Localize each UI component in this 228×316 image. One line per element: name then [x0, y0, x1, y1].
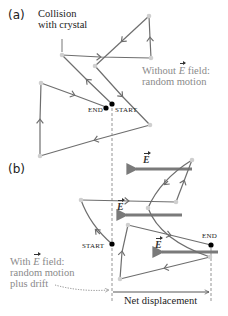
- caption-b-prefix: With: [10, 256, 33, 267]
- drift-motion-path: [81, 160, 211, 279]
- start-label-a: START: [115, 107, 137, 114]
- end-point-a: [103, 105, 108, 110]
- end-label-b: END: [202, 233, 217, 240]
- collision-points: [38, 14, 154, 159]
- random-motion-path: [40, 16, 151, 156]
- start-point-b: [109, 241, 114, 246]
- e-field-label-1: E: [143, 155, 150, 165]
- start-point-a: [109, 101, 114, 106]
- e-vector-symbol-b: E: [33, 256, 39, 267]
- caption-b-suffix: field:: [40, 256, 65, 267]
- caption-a-line2: random motion: [142, 76, 210, 87]
- e-field-label-2: E: [117, 202, 124, 212]
- collision-callout: Collision with crystal: [38, 8, 87, 30]
- end-label-a: END: [88, 107, 103, 114]
- e-field-symbol-3: E: [155, 240, 162, 250]
- caption-a-suffix: field:: [185, 65, 210, 76]
- net-displacement-label: Net displacement: [124, 296, 197, 307]
- e-field-label-3: E: [155, 240, 162, 250]
- collision-callout-line1: Collision: [38, 8, 87, 19]
- caption-b-line2: random motion: [10, 267, 74, 278]
- caption-b-line3: plus drift: [10, 278, 74, 289]
- e-vector-symbol: E: [179, 65, 185, 76]
- panel-b-label: (b): [8, 163, 25, 175]
- panel-a-label: (a): [8, 9, 25, 21]
- caption-with-field: With E field: random motion plus drift: [10, 256, 74, 289]
- e-field-symbol-2: E: [117, 202, 124, 212]
- end-point-b: [208, 242, 213, 247]
- caption-a-prefix: Without: [142, 65, 179, 76]
- caption-without-field: Without E field: random motion: [142, 65, 210, 87]
- e-field-symbol-1: E: [143, 155, 150, 165]
- start-label-b: START: [82, 243, 104, 250]
- collision-callout-line2: with crystal: [38, 19, 87, 30]
- collision-points-b: [79, 158, 213, 282]
